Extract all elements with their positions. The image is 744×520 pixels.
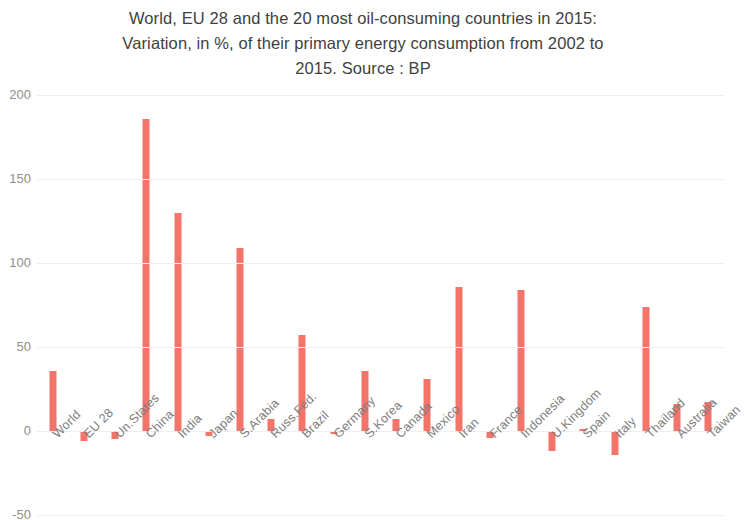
chart-title-text: World, EU 28 and the 20 most oil-consumi…: [122, 9, 603, 77]
bar[interactable]: [236, 248, 243, 431]
y-axis-tick-label: 200: [0, 88, 31, 101]
y-axis-tick-label: 100: [0, 256, 31, 269]
bar[interactable]: [49, 371, 56, 431]
y-axis-tick-label: 0: [0, 424, 31, 437]
gridline: [37, 263, 724, 264]
bar[interactable]: [174, 213, 181, 431]
y-axis-tick-label: -50: [0, 508, 31, 520]
bar[interactable]: [642, 307, 649, 431]
x-axis-labels: WorldEU 28Un.StatesChinaIndiaJapanS.Arab…: [37, 425, 724, 520]
y-axis-tick-label: 50: [0, 340, 31, 353]
gridline: [37, 95, 724, 96]
bar[interactable]: [143, 119, 150, 431]
gridline: [37, 347, 724, 348]
y-axis-tick-label: 150: [0, 172, 31, 185]
gridline: [37, 179, 724, 180]
chart-title: World, EU 28 and the 20 most oil-consumi…: [0, 6, 726, 81]
